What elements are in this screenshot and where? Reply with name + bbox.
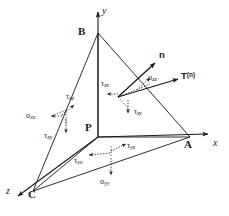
z-face-stress-group [107,78,150,113]
tau-yz-arrow [111,144,126,151]
figure-canvas [0,0,229,216]
y-face-stress-group [89,144,126,175]
tau-yz-subscript: yz [130,144,135,150]
z-stress-construction-b [118,97,128,108]
traction-vector-superscript: (n) [187,71,195,78]
tau-zx-subscript: zx [104,82,109,88]
traction-vector-label: T(n) [181,71,195,81]
vertex-label-A: A [184,139,192,150]
sigma-yy-label: σyy [100,178,109,186]
sigma-zz-subscript: zz [152,76,156,82]
tau-xy-label: τxy [44,132,52,140]
tau-yz-label: τyz [127,142,135,150]
y-axis-label: y [102,6,106,16]
sigma-zz-label: σzz [148,74,157,82]
stress-tetrahedron-figure: y x z B A C P n T(n) τzx σzz τzy τxz σxx… [0,0,229,216]
vertex-label-C: C [28,189,36,200]
tau-zx-label: τzx [101,80,109,88]
vertex-label-B: B [78,26,85,37]
edge-B-A [98,33,190,137]
axis-lines [18,12,208,196]
sigma-xx-subscript: xx [30,114,35,120]
tau-yx-label: τyx [74,157,82,165]
tau-xz-subscript: xz [69,95,74,101]
tau-xz-label: τxz [66,93,74,101]
vertex-label-P: P [85,122,92,133]
normal-vector-label: n [159,50,165,60]
sigma-yy-subscript: yy [104,180,109,186]
sigma-xx-label: σxx [26,112,35,120]
edge-P-C [33,137,98,191]
edge-B-C [33,33,98,191]
tau-xy-subscript: xy [47,134,52,140]
x-axis-label: x [213,138,217,148]
tau-zy-subscript: zy [137,110,142,116]
tau-yx-arrow [89,153,110,155]
edge-A-C [33,137,190,191]
tau-yx-subscript: yx [77,159,82,165]
z-axis-label: z [6,186,10,196]
tau-zy-label: τzy [134,108,142,116]
